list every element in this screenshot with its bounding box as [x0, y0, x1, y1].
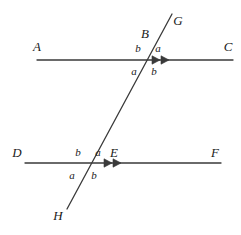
angle-label-upper-top-right: a — [155, 43, 161, 54]
figure-canvas — [0, 0, 241, 235]
arrowhead-lower-arrow-2 — [113, 159, 121, 167]
point-label-B: B — [141, 27, 149, 40]
point-label-C: C — [224, 40, 233, 53]
point-label-E: E — [110, 146, 118, 159]
angle-label-lower-top-left: b — [75, 147, 81, 158]
point-label-H: H — [53, 209, 62, 222]
point-label-D: D — [12, 146, 21, 159]
angle-label-lower-bottom-right: b — [91, 170, 97, 181]
arrowhead-lower-arrow-1 — [104, 159, 112, 167]
arrowhead-upper-arrow-1 — [152, 56, 160, 64]
geometry-figure: ACBGDFEHbaabbaab — [0, 0, 241, 235]
angle-label-lower-top-right: a — [95, 147, 101, 158]
angle-label-upper-bottom-right: b — [151, 66, 157, 77]
arrowhead-upper-arrow-2 — [161, 56, 169, 64]
point-label-F: F — [211, 146, 219, 159]
angle-label-upper-top-left: b — [135, 43, 141, 54]
point-label-G: G — [173, 14, 182, 27]
point-label-A: A — [33, 40, 41, 53]
angle-label-lower-bottom-left: a — [69, 170, 75, 181]
angle-label-upper-bottom-left: a — [131, 66, 137, 77]
